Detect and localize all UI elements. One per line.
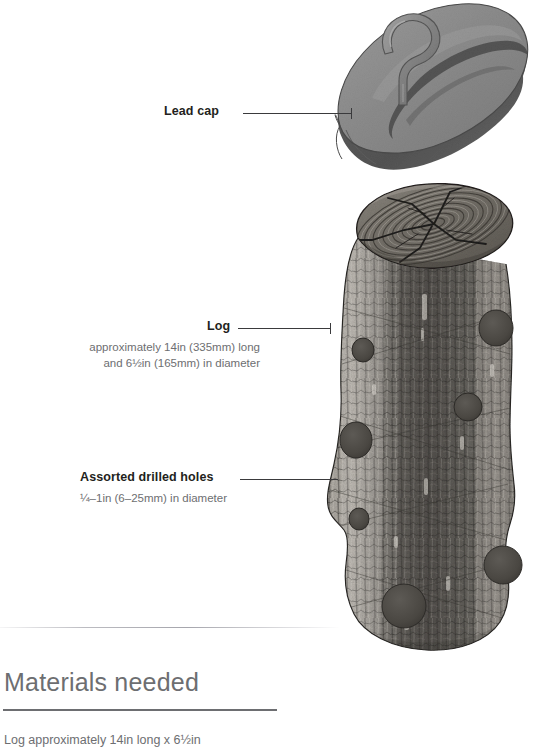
- materials-heading-rule: [3, 709, 277, 711]
- drilled-hole: [479, 310, 513, 346]
- drilled-hole: [340, 422, 372, 458]
- leader-line-log: [238, 328, 331, 329]
- drilled-hole: [352, 338, 374, 362]
- materials-needed-heading: Materials needed: [4, 668, 199, 697]
- drilled-hole: [484, 546, 522, 584]
- lead-cap-icon: [328, 2, 540, 197]
- label-log-sub-2: and 6½in (165mm) in diameter: [42, 356, 260, 371]
- log-icon: [300, 178, 540, 678]
- label-drilled-holes-sub-1: ¼–1in (6–25mm) in diameter: [80, 491, 227, 506]
- leader-tick-log: [330, 323, 331, 334]
- lead-cap-illustration: [328, 2, 540, 197]
- leader-line-drilled-holes: [240, 479, 338, 480]
- label-log-sub-1: approximately 14in (335mm) long: [42, 340, 260, 355]
- leader-line-lead-cap: [243, 113, 352, 114]
- drilled-hole: [382, 584, 426, 628]
- log-illustration: [300, 178, 540, 678]
- drilled-hole: [349, 508, 369, 530]
- page-divider-faint: [0, 627, 340, 628]
- label-assorted-drilled-holes: Assorted drilled holes: [80, 470, 213, 484]
- label-log: Log: [207, 319, 230, 333]
- leader-tick-lead-cap: [351, 108, 352, 119]
- label-lead-cap: Lead cap: [164, 104, 219, 118]
- drilled-hole: [454, 393, 482, 421]
- materials-list-item: Log approximately 14in long x 6½in: [4, 733, 201, 747]
- page-canvas: Lead cap Log approximately 14in (335mm) …: [0, 0, 540, 753]
